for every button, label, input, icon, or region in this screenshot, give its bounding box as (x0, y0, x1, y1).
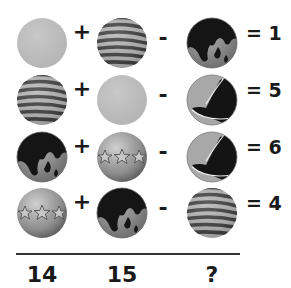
minus-operator: - (153, 197, 173, 219)
column-3-unknown: ? (187, 263, 237, 287)
sum-divider-line (16, 253, 240, 255)
row-result: = 5 (246, 80, 282, 100)
globe-ball-icon (186, 17, 238, 69)
globe-ball-icon (16, 131, 68, 183)
gray-ball-icon (96, 74, 148, 126)
striped-ball-icon (186, 187, 238, 239)
minus-operator: - (153, 141, 173, 163)
plus-operator: + (72, 78, 92, 100)
striped-ball-icon (96, 17, 148, 69)
minus-operator: - (153, 84, 173, 106)
gray-ball-icon (16, 17, 68, 69)
plus-operator: + (72, 21, 92, 43)
row-result: = 1 (246, 23, 282, 43)
plus-operator: + (72, 135, 92, 157)
minus-operator: - (153, 27, 173, 49)
star-ball-icon (16, 187, 68, 239)
column-1-total: 14 (17, 263, 67, 287)
plus-operator: + (72, 191, 92, 213)
row-result: = 6 (246, 137, 282, 157)
column-2-total: 15 (97, 263, 147, 287)
globe-ball-icon (96, 187, 148, 239)
star-ball-icon (96, 131, 148, 183)
striped-ball-icon (16, 74, 68, 126)
bird-ball-icon (186, 131, 238, 183)
bird-ball-icon (186, 74, 238, 126)
row-result: = 4 (246, 193, 282, 213)
